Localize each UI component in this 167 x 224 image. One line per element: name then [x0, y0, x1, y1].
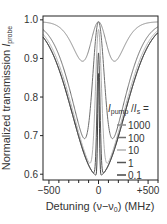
- y-tick-label: 0.9: [24, 53, 38, 64]
- x-tick-label: +500: [137, 185, 160, 196]
- x-axis-label: Detuning (ν−ν0) (MHz): [46, 200, 155, 213]
- legend: 10001001010.1: [117, 120, 151, 181]
- legend-entry: 100: [128, 133, 145, 144]
- legend-entry: 10: [128, 145, 140, 156]
- y-axis-label: Normalized transmission Iprobe: [0, 26, 14, 171]
- y-tick-label: 0.8: [24, 92, 38, 103]
- y-tick-label: 0.7: [24, 130, 38, 141]
- legend-entry: 1: [128, 158, 134, 169]
- y-axis-ticks: 0.60.70.80.91.0: [24, 14, 43, 179]
- plot-frame: [43, 16, 158, 180]
- legend-entry: 1000: [128, 120, 151, 131]
- x-axis-ticks: −5000+500: [38, 180, 160, 196]
- transmission-chart: 0.60.70.80.91.0 −5000+500 Normalized tra…: [0, 0, 167, 224]
- y-tick-label: 0.6: [24, 169, 38, 180]
- legend-entry: 0.1: [128, 170, 142, 181]
- x-tick-label: −500: [38, 185, 61, 196]
- y-tick-label: 1.0: [24, 14, 38, 25]
- plot-curves: [43, 22, 158, 175]
- legend-title: Ipump /Is =: [108, 103, 149, 116]
- x-tick-label: 0: [96, 185, 102, 196]
